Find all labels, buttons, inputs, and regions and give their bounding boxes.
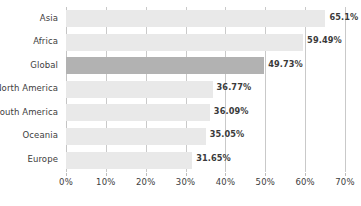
bar-value-label: 65.1% [329, 12, 358, 22]
bar-row[interactable]: 49.73% [66, 54, 345, 78]
bar-value-label: 59.49% [307, 35, 342, 45]
xtick-label-70%: 70% [335, 177, 355, 188]
bar-north-america[interactable] [66, 81, 213, 98]
bar-value-label: 31.65% [196, 153, 231, 163]
xtick-label-10%: 10% [96, 177, 116, 188]
bar-row[interactable]: 65.1% [66, 7, 345, 31]
bar-row[interactable]: 36.09% [66, 101, 345, 125]
xtick-mark [345, 173, 346, 176]
xtick-mark [66, 173, 67, 176]
bar-row[interactable]: 35.05% [66, 125, 345, 149]
bar-oceania[interactable] [66, 128, 206, 145]
plot-area: 65.1%59.49%49.73%36.77%36.09%35.05%31.65… [66, 7, 345, 172]
xtick-label-50%: 50% [256, 177, 276, 188]
xtick-mark [305, 173, 306, 176]
bar-asia[interactable] [66, 10, 325, 27]
xtick-label-40%: 40% [216, 177, 236, 188]
bar-value-label: 36.09% [214, 106, 249, 116]
category-label-south-america: South America [0, 107, 58, 117]
category-label-africa: Africa [0, 36, 58, 46]
bar-africa[interactable] [66, 34, 303, 51]
category-axis: AsiaAfricaGlobalNorth AmericaSouth Ameri… [0, 7, 62, 172]
bar-value-label: 49.73% [268, 59, 303, 69]
category-label-global: Global [0, 60, 58, 70]
category-label-asia: Asia [0, 13, 58, 23]
bar-south-america[interactable] [66, 104, 210, 121]
bar-global[interactable] [66, 57, 264, 74]
bar-row[interactable]: 59.49% [66, 31, 345, 55]
bar-row[interactable]: 31.65% [66, 148, 345, 172]
bar-europe[interactable] [66, 152, 192, 169]
bar-row[interactable]: 36.77% [66, 78, 345, 102]
bar-chart: AsiaAfricaGlobalNorth AmericaSouth Ameri… [0, 0, 361, 206]
xtick-label-20%: 20% [136, 177, 156, 188]
xtick-mark [106, 173, 107, 176]
xtick-mark [265, 173, 266, 176]
bar-value-label: 35.05% [210, 129, 245, 139]
xtick-label-0%: 0% [59, 177, 73, 188]
bar-value-label: 36.77% [217, 82, 252, 92]
xtick-label-30%: 30% [176, 177, 196, 188]
category-label-oceania: Oceania [0, 130, 58, 140]
category-label-europe: Europe [0, 154, 58, 164]
xtick-mark [146, 173, 147, 176]
xtick-mark [186, 173, 187, 176]
category-label-north-america: North America [0, 83, 58, 93]
value-axis: 0%10%20%30%40%50%60%70% [66, 173, 345, 197]
xtick-label-60%: 60% [295, 177, 315, 188]
gridline-70% [345, 7, 346, 172]
xtick-mark [225, 173, 226, 176]
